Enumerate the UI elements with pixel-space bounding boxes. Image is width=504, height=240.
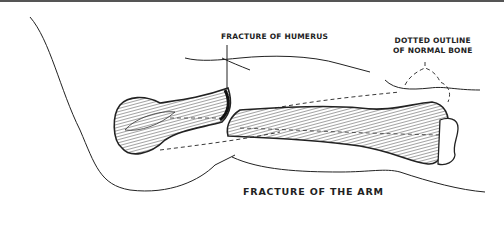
dotted-outline-label: DOTTED OUTLINE OF NORMAL BONE [393,36,473,56]
dotted-outline-label-line2: OF NORMAL BONE [393,46,473,56]
humerus-proximal-fragment [114,88,230,154]
elbow-joint [438,119,458,165]
humerus-distal-fragment [227,102,458,165]
diagram-title: FRACTURE OF THE ARM [243,187,384,197]
fracture-of-humerus-label: FRACTURE OF HUMERUS [221,32,328,42]
dotted-outline-label-line1: DOTTED OUTLINE [393,36,473,46]
